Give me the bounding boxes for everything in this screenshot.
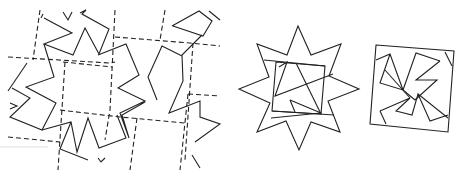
outer-square bbox=[370, 45, 454, 132]
tessellation-panel bbox=[0, 10, 220, 170]
star-panel bbox=[239, 26, 359, 150]
diagram-canvas bbox=[0, 0, 457, 177]
star-outlines bbox=[8, 10, 220, 168]
square-panel bbox=[370, 45, 454, 132]
dashed-grid bbox=[8, 10, 220, 170]
eight-pointed-star bbox=[239, 26, 359, 150]
